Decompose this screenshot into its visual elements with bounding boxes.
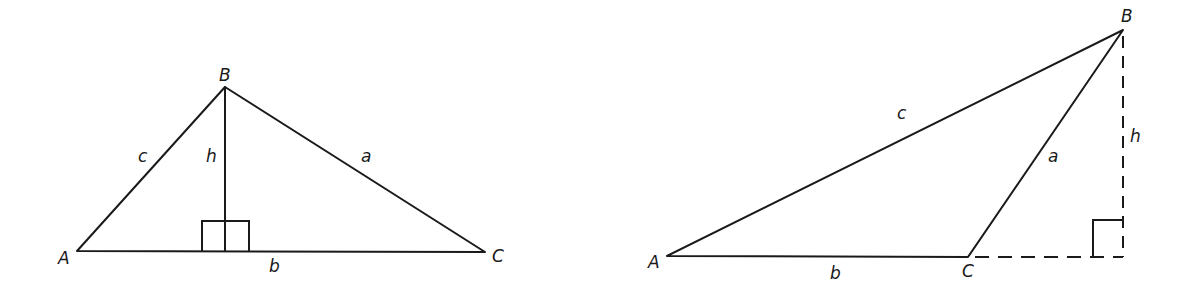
triangle-2-outline [667, 30, 1123, 257]
triangle-2-altitude-h-label: h [1130, 126, 1141, 146]
figure-acute-triangle: A B C c h a b [57, 65, 504, 276]
triangle-2-side-a-label: a [1048, 146, 1058, 166]
triangle-2-vertex-a-label: A [647, 252, 660, 272]
figure-obtuse-triangle: A B C c a b h [647, 6, 1141, 283]
triangle-1-side-c-label: c [138, 146, 148, 166]
diagram-canvas: A B C c h a b A B C c a b h [0, 0, 1191, 299]
triangle-1-side-b-label: b [269, 256, 280, 276]
triangle-1-vertex-c-label: C [492, 246, 504, 266]
triangle-1-side-a-label: a [361, 146, 371, 166]
triangle-1-altitude-h-label: h [206, 146, 217, 166]
triangle-2-vertex-b-label: B [1121, 6, 1133, 26]
triangle-1-vertex-b-label: B [219, 65, 231, 85]
triangle-2-right-angle-marker [1093, 220, 1123, 257]
triangle-2-vertex-c-label: C [962, 261, 974, 281]
triangle-2-side-b-label: b [830, 263, 841, 283]
triangle-1-outline [77, 87, 485, 252]
triangle-1-vertex-a-label: A [57, 248, 70, 268]
triangle-2-side-c-label: c [897, 103, 907, 123]
